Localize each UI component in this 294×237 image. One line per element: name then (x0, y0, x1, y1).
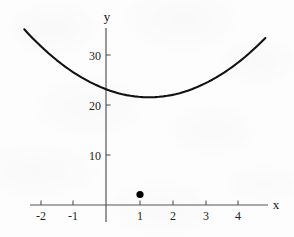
x-tick-label-3: 3 (203, 209, 209, 223)
parabola-plot-figure: 30 20 10 -2 -1 1 2 3 4 x y (0, 0, 294, 237)
parabola-curve (24, 29, 265, 97)
y-tick-label-30: 30 (89, 49, 101, 63)
y-axis-label: y (104, 9, 111, 24)
x-tick-label-neg1: -1 (68, 209, 78, 223)
x-tick-marks (41, 201, 238, 206)
x-tick-label-2: 2 (170, 209, 176, 223)
plot-canvas: 30 20 10 -2 -1 1 2 3 4 x y (0, 0, 294, 237)
y-tick-label-20: 20 (89, 99, 101, 113)
y-tick-label-10: 10 (89, 149, 101, 163)
x-tick-label-neg2: -2 (36, 209, 46, 223)
curve-guide-unused (24, 29, 261, 124)
y-tick-marks (106, 55, 111, 155)
vertex-point (136, 191, 143, 198)
x-tick-label-1: 1 (137, 209, 143, 223)
x-tick-label-4: 4 (235, 209, 241, 223)
x-axis-label: x (273, 197, 280, 212)
